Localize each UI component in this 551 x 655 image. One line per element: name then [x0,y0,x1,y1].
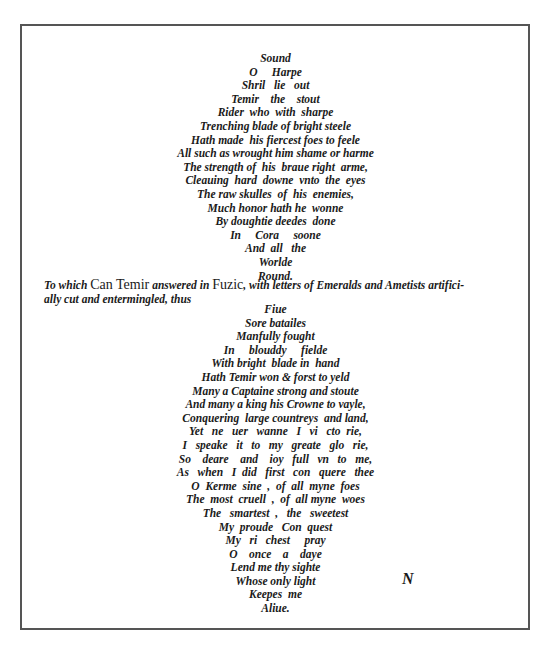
poem-line: Manfully fought [0,330,551,344]
poem-line: By doughtie deedes done [0,215,551,229]
poem-line: Shril lie out [0,79,551,93]
poem-line: The smartest , the sweetest [0,507,551,521]
poem-line: I speake it to my greate glo rie, [0,439,551,453]
poem-line: Trenching blade of bright steele [0,120,551,134]
poem-line: The most cruell , of all myne woes [0,493,551,507]
poem-line: In Cora soone [0,229,551,243]
poem-line: So deare and ioy full vn to me, [0,453,551,467]
poem-line: Whose only light [0,575,551,589]
poem-line: The strength of his braue right arme, [0,161,551,175]
poem-line: Sore batailes [0,317,551,331]
poem-line: Sound [0,52,551,66]
poem-line: And many a king his Crowne to vayle, [0,398,551,412]
prose-transition: To which Can Temir answered in Fuzic, wi… [44,278,514,306]
prose-line-1: To which Can Temir answered in Fuzic, wi… [44,278,514,292]
poem-line: As when I did first con quere thee [0,466,551,480]
poem-line: Fiue [0,303,551,317]
poem-line: Yet ne uer wanne I vi cto rie, [0,425,551,439]
poem-part-2: Fiue Sore batailes Manfully fought In bl… [0,303,551,616]
word-fuzic: Fuzic [212,277,243,292]
poem-line: Hath Temir won & forst to yeld [0,371,551,385]
poem-line: My proude Con quest [0,521,551,535]
poem-line: Many a Captaine strong and stoute [0,385,551,399]
poem-line: O once a daye [0,548,551,562]
poem-line: Cleauing hard downe vnto the eyes [0,174,551,188]
poem-part-1: Sound O Harpe Shril lie out Temir the st… [0,52,551,283]
poem-line: Rider who with sharpe [0,106,551,120]
poem-line: O Harpe [0,66,551,80]
poem-line: All such as wrought him shame or harme [0,147,551,161]
poem-line: O Kerme sine , of all myne foes [0,480,551,494]
name-can-temir: Can Temir [90,277,149,292]
poem-line: Hath made his fiercest foes to feele [0,134,551,148]
poem-line: Keepes me [0,588,551,602]
poem-line: Worlde [0,256,551,270]
poem-line: Temir the stout [0,93,551,107]
poem-line: Aliue. [0,602,551,616]
poem-line: Conquering large countreys and land, [0,412,551,426]
signature-mark: N [402,570,414,588]
poem-line: Lend me thy sighte [0,561,551,575]
poem-line: The raw skulles of his enemies, [0,188,551,202]
poem-line: And all the [0,242,551,256]
poem-line: In blouddy fielde [0,344,551,358]
poem-line: My ri chest pray [0,534,551,548]
poem-line: Much honor hath he wonne [0,202,551,216]
poem-line: With bright blade in hand [0,357,551,371]
